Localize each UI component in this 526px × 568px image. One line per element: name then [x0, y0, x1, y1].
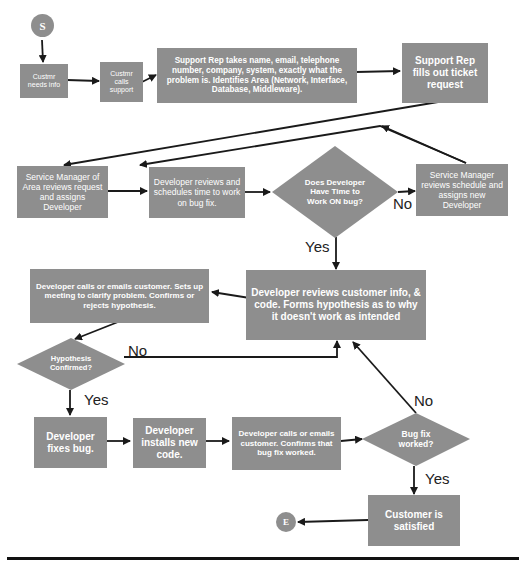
- node-developer-confirms-fix: Developer calls or emails customer. Conf…: [232, 417, 341, 470]
- decision-text: Does Developer Have Time to Work ON bug?: [302, 178, 368, 206]
- node-customer-calls-support: Custmr calls support: [100, 62, 143, 102]
- node-text: Service Manager of Area reviews request …: [21, 172, 104, 212]
- node-text: Developer reviews customer info, & code.…: [250, 287, 422, 322]
- node-customer-satisfied: Customer is satisfied: [368, 495, 460, 546]
- edge-label-bug-fix-yes: Yes: [425, 470, 449, 487]
- node-developer-reviews-info: Developer reviews customer info, & code.…: [246, 270, 426, 340]
- decision-developer-has-time: Does Developer Have Time to Work ON bug?: [272, 146, 398, 238]
- end-node: E: [276, 512, 296, 532]
- node-text: Support Rep takes name, email, telephone…: [161, 56, 353, 95]
- edge-label-has-time-yes: Yes: [305, 238, 329, 255]
- node-text: Custmr calls support: [104, 70, 139, 95]
- end-label: E: [283, 517, 289, 527]
- node-text: Developer installs new code.: [137, 425, 202, 460]
- node-text: Customer is satisfied: [372, 509, 456, 533]
- node-developer-contacts-customer: Developer calls or emails customer. Sets…: [30, 269, 209, 323]
- node-customer-needs-info: Custmr needs info: [20, 64, 68, 98]
- edge-label-bug-fix-no: No: [414, 392, 433, 409]
- decision-bug-fix-worked: Bug fix worked?: [362, 413, 470, 466]
- node-text: Developer calls or emails customer. Sets…: [34, 282, 205, 310]
- node-text: Support Rep fills out ticket request: [406, 55, 484, 90]
- node-text: Service Manager reviews schedule and ass…: [420, 170, 504, 210]
- decision-text: Bug fix worked?: [388, 430, 444, 450]
- node-developer-schedules: Developer reviews and schedules time to …: [149, 167, 245, 218]
- node-developer-fixes-bug: Developer fixes bug.: [34, 417, 107, 468]
- decision-text: Hypothesis Confirmed?: [42, 355, 100, 372]
- edge-label-hypothesis-no: No: [128, 342, 147, 359]
- edge-label-hypothesis-yes: Yes: [84, 391, 108, 408]
- bottom-rule: [7, 557, 519, 560]
- node-text: Custmr needs info: [24, 73, 64, 90]
- node-support-rep-takes-info: Support Rep takes name, email, telephone…: [157, 48, 357, 103]
- node-developer-installs-code: Developer installs new code.: [133, 418, 206, 468]
- node-service-manager-reassign: Service Manager reviews schedule and ass…: [416, 164, 508, 216]
- node-text: Developer reviews and schedules time to …: [153, 177, 241, 207]
- node-support-rep-ticket: Support Rep fills out ticket request: [402, 43, 488, 103]
- start-node: S: [31, 14, 54, 37]
- node-text: Developer calls or emails customer. Conf…: [236, 429, 337, 457]
- start-label: S: [39, 20, 45, 32]
- node-text: Developer fixes bug.: [38, 431, 103, 455]
- edge-label-has-time-no: No: [393, 195, 412, 212]
- decision-hypothesis-confirmed: Hypothesis Confirmed?: [17, 338, 125, 390]
- node-service-manager-area: Service Manager of Area reviews request …: [17, 166, 108, 218]
